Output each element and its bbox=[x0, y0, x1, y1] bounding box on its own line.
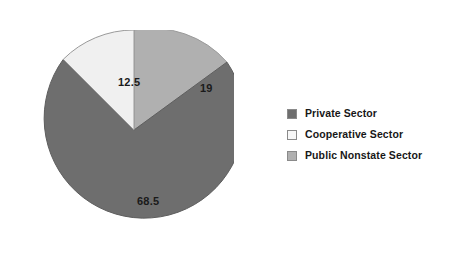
pie-chart-figure: 19 12.5 68.5 Private Sector Cooperative … bbox=[0, 0, 452, 267]
legend-swatch-icon-public-nonstate-sector bbox=[287, 151, 297, 161]
pie-slice-value-private-sector: 68.5 bbox=[137, 195, 159, 207]
legend-label-public-nonstate-sector: Public Nonstate Sector bbox=[305, 150, 422, 161]
legend-swatch-icon-private-sector bbox=[287, 109, 297, 119]
legend-label-cooperative-sector: Cooperative Sector bbox=[305, 129, 403, 140]
legend-label-private-sector: Private Sector bbox=[305, 108, 377, 119]
pie-slice-value-cooperative-sector: 12.5 bbox=[118, 76, 140, 88]
chart-legend: Private Sector Cooperative Sector Public… bbox=[287, 103, 447, 166]
pie-slice-value-public-nonstate-sector: 19 bbox=[200, 82, 213, 94]
legend-item-cooperative-sector[interactable]: Cooperative Sector bbox=[287, 124, 447, 145]
pie-svg bbox=[34, 30, 234, 230]
legend-item-public-nonstate-sector[interactable]: Public Nonstate Sector bbox=[287, 145, 447, 166]
pie-chart: 19 12.5 68.5 bbox=[34, 30, 234, 230]
legend-item-private-sector[interactable]: Private Sector bbox=[287, 103, 447, 124]
legend-swatch-icon-cooperative-sector bbox=[287, 130, 297, 140]
